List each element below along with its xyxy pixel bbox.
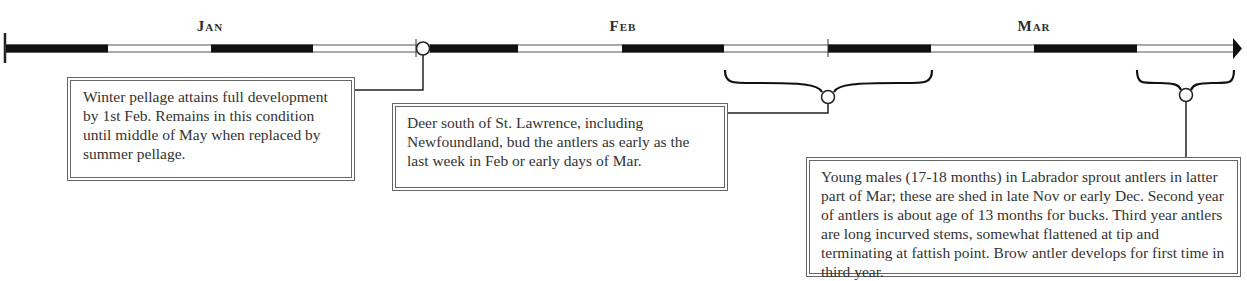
month-label-feb: Feb	[610, 18, 637, 35]
brace-node-icon	[1180, 89, 1193, 102]
month-label-mar: Mar	[1017, 18, 1050, 35]
note-box-winter-pellage: Winter pellage attains full development …	[67, 77, 355, 181]
note-text: Winter pellage attains full development …	[70, 80, 352, 178]
brace-late-feb	[725, 70, 932, 92]
month-label-jan: Jan	[197, 18, 223, 35]
note-box-deer-south: Deer south of St. Lawrence, including Ne…	[392, 103, 728, 191]
brace-node-icon	[822, 91, 835, 104]
connector-deer-south	[727, 104, 828, 113]
connector-winter-pellage	[354, 55, 423, 90]
note-text: Young males (17-18 months) in Labrador s…	[809, 160, 1238, 274]
timeline-arrow-icon	[1233, 38, 1242, 59]
note-text: Deer south of St. Lawrence, including Ne…	[395, 106, 725, 188]
note-box-young-males: Young males (17-18 months) in Labrador s…	[806, 157, 1241, 277]
feb1-marker-icon	[417, 42, 430, 55]
brace-late-mar	[1137, 70, 1234, 90]
